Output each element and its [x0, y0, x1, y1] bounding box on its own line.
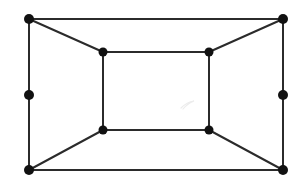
graph-vertex-inner-bottom-left [99, 126, 108, 135]
graph-vertex-inner-top-left [99, 48, 108, 57]
figure-background [0, 0, 302, 186]
graph-vertex-inner-bottom-right [205, 126, 214, 135]
graph-canvas [0, 0, 302, 186]
graph-vertex-outer-bottom-right [278, 165, 288, 175]
graph-vertex-outer-mid-right [278, 90, 288, 100]
graph-vertex-outer-top-left [24, 14, 34, 24]
graph-vertex-inner-top-right [205, 48, 214, 57]
graph-vertex-outer-bottom-left [24, 165, 34, 175]
graph-vertex-outer-mid-left [24, 90, 34, 100]
graph-figure [0, 0, 302, 186]
graph-vertex-outer-top-right [278, 14, 288, 24]
